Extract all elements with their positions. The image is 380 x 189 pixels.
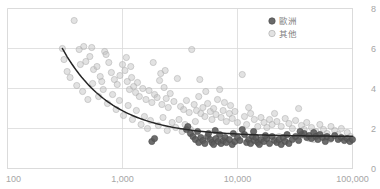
data-point xyxy=(134,79,140,85)
data-point xyxy=(251,116,257,122)
data-point xyxy=(197,76,203,82)
chart-background xyxy=(0,0,380,189)
data-point xyxy=(297,128,303,134)
data-point xyxy=(296,105,302,111)
data-point xyxy=(196,93,202,99)
data-point xyxy=(271,110,277,116)
data-point xyxy=(202,140,208,146)
data-point xyxy=(61,56,67,62)
data-point xyxy=(239,71,245,77)
data-point xyxy=(164,127,170,133)
data-point xyxy=(156,77,162,83)
data-point xyxy=(165,104,171,110)
data-point xyxy=(116,97,122,103)
data-point xyxy=(211,105,217,111)
data-point xyxy=(232,108,238,114)
x-tick-label: 1,000 xyxy=(111,174,134,184)
data-point xyxy=(161,84,167,90)
data-point xyxy=(160,114,166,120)
data-point xyxy=(237,137,243,143)
data-point xyxy=(129,74,135,80)
data-point xyxy=(154,94,160,100)
legend-marker-other[interactable] xyxy=(269,30,275,36)
data-point xyxy=(304,119,310,125)
data-point xyxy=(129,116,135,122)
scatter-chart: 1001,00010,000100,000 02468 歐洲其他 xyxy=(0,0,380,189)
data-point xyxy=(125,102,131,108)
data-point xyxy=(246,104,252,110)
data-point xyxy=(143,96,149,102)
data-point xyxy=(74,82,80,88)
data-point xyxy=(250,128,256,134)
y-tick-label: 8 xyxy=(371,4,376,14)
data-point xyxy=(140,85,146,91)
data-point xyxy=(87,53,93,59)
data-point xyxy=(94,63,100,69)
data-point xyxy=(144,125,150,131)
data-point xyxy=(103,51,109,57)
data-point xyxy=(109,91,115,97)
data-point xyxy=(114,81,120,87)
data-point xyxy=(89,44,95,50)
data-point xyxy=(117,72,123,78)
data-point xyxy=(186,109,192,115)
y-tick-label: 2 xyxy=(371,124,376,134)
data-point xyxy=(223,118,229,124)
data-point xyxy=(349,136,355,142)
data-point xyxy=(136,93,142,99)
data-point xyxy=(220,107,226,113)
legend-label[interactable]: 歐洲 xyxy=(279,16,297,26)
y-tick-label: 0 xyxy=(371,164,376,174)
data-point xyxy=(108,69,114,75)
data-point xyxy=(167,90,173,96)
data-point xyxy=(214,96,220,102)
data-point xyxy=(192,118,198,124)
data-point xyxy=(159,101,165,107)
data-point xyxy=(191,101,197,107)
data-point xyxy=(150,59,156,65)
data-point xyxy=(289,125,295,131)
data-point xyxy=(128,63,134,69)
data-point xyxy=(227,102,233,108)
y-tick-label: 4 xyxy=(371,84,376,94)
x-tick-label: 10,000 xyxy=(224,174,252,184)
data-point xyxy=(119,61,125,67)
x-tick-label: 100 xyxy=(6,174,21,184)
data-point xyxy=(162,67,168,73)
data-point xyxy=(202,113,208,119)
data-point xyxy=(81,43,87,49)
data-point xyxy=(85,96,91,102)
y-tick-label: 6 xyxy=(371,44,376,54)
data-point xyxy=(241,113,247,119)
data-point xyxy=(205,100,211,106)
data-point xyxy=(255,123,261,129)
data-point xyxy=(120,112,126,118)
data-point xyxy=(218,114,224,120)
data-point xyxy=(151,135,157,141)
data-point xyxy=(80,88,86,94)
data-point xyxy=(217,86,223,92)
data-point xyxy=(338,125,344,131)
data-point xyxy=(171,98,177,104)
data-point xyxy=(64,68,70,74)
data-point xyxy=(284,131,290,137)
data-point xyxy=(176,116,182,122)
data-point xyxy=(189,46,195,52)
data-point xyxy=(234,119,240,125)
legend-marker-europe[interactable] xyxy=(269,18,275,24)
legend-label[interactable]: 其他 xyxy=(279,29,297,39)
data-point xyxy=(229,115,235,121)
data-point xyxy=(71,17,77,23)
data-point xyxy=(67,74,73,80)
x-tick-label: 100,000 xyxy=(336,174,369,184)
data-point xyxy=(221,99,227,105)
data-point xyxy=(90,80,96,86)
data-point xyxy=(174,75,180,81)
data-point xyxy=(203,88,209,94)
data-point xyxy=(183,97,189,103)
data-point xyxy=(278,123,284,129)
chart-canvas: 1001,00010,000100,000 02468 歐洲其他 xyxy=(0,0,380,189)
data-point xyxy=(123,54,129,60)
data-point xyxy=(100,86,106,92)
data-point xyxy=(99,78,105,84)
